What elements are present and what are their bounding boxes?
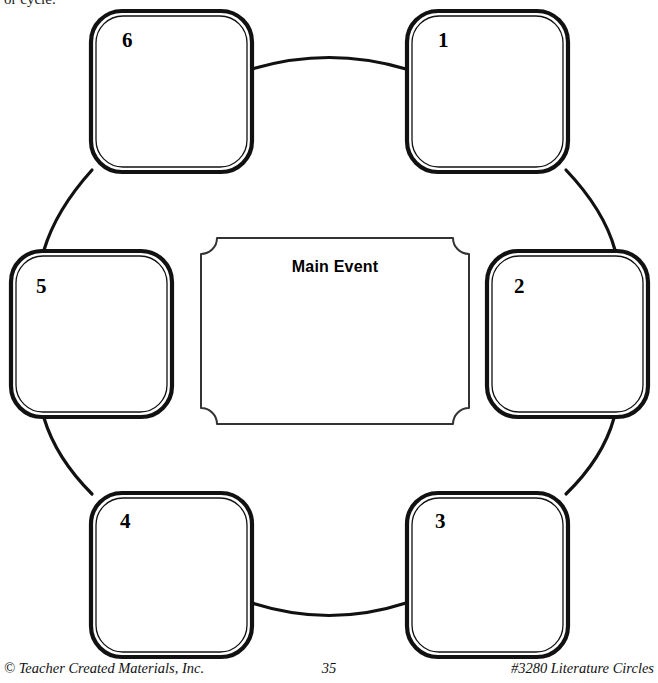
connector-2-to-3 [566,418,614,494]
footer-product: #3280 Literature Circles [511,659,654,677]
main-event-cycle-diagram [0,0,658,665]
step-box-1 [407,11,568,172]
step-number-3: 3 [435,511,446,532]
page-footer: © Teacher Created Materials, Inc. 35 #32… [0,659,658,679]
connector-3-to-4 [252,603,406,616]
step-box-2 [487,251,648,417]
step-box-6 [91,11,252,172]
connector-4-to-5 [44,418,92,494]
step-number-1: 1 [438,30,449,51]
step-box-4 [91,493,252,657]
connector-1-to-2 [566,170,615,250]
step-number-6: 6 [122,30,133,51]
step-number-2: 2 [514,276,525,297]
connector-6-to-1 [252,58,406,70]
connector-5-to-6 [44,170,92,250]
main-event-title: Main Event [200,257,470,276]
step-box-3 [407,493,568,657]
step-number-5: 5 [36,276,47,297]
step-number-4: 4 [120,511,131,532]
